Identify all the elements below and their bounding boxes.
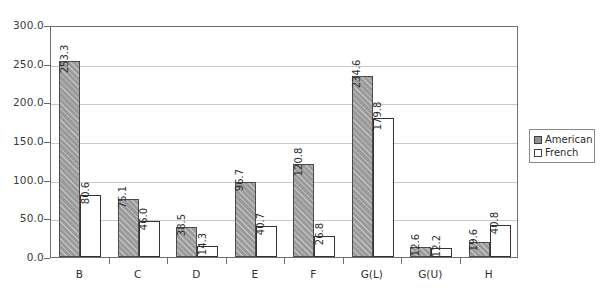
chart-legend: AmericanFrench bbox=[529, 129, 595, 163]
x-category-label: D bbox=[167, 268, 226, 280]
bar-group-c: 75.146.0 bbox=[118, 27, 160, 257]
bar-american-f[interactable]: 120.8 bbox=[293, 164, 314, 257]
x-category-label: E bbox=[226, 268, 285, 280]
x-category-label: C bbox=[109, 268, 168, 280]
y-tick-label: 150.0 bbox=[0, 136, 44, 147]
bar-american-d[interactable]: 38.5 bbox=[176, 227, 197, 257]
y-tick-mark bbox=[44, 258, 50, 259]
bar-group-gl: 234.6179.8 bbox=[352, 27, 394, 257]
bar-value-label: 19.6 bbox=[468, 229, 479, 251]
x-tick-mark bbox=[109, 258, 110, 264]
bar-french-f[interactable]: 26.8 bbox=[314, 236, 335, 257]
bar-american-c[interactable]: 75.1 bbox=[118, 199, 139, 257]
y-tick-mark bbox=[44, 103, 50, 104]
bar-french-h[interactable]: 40.8 bbox=[490, 225, 511, 257]
bar-value-label: 80.6 bbox=[80, 182, 91, 204]
bar-group-h: 19.640.8 bbox=[469, 27, 511, 257]
legend-item-french[interactable]: French bbox=[534, 146, 590, 159]
x-category-label: F bbox=[284, 268, 343, 280]
bar-value-label: 96.7 bbox=[234, 169, 245, 191]
y-tick-mark bbox=[44, 219, 50, 220]
bar-group-d: 38.514.3 bbox=[176, 27, 218, 257]
bar-french-e[interactable]: 40.7 bbox=[256, 226, 277, 257]
bar-french-d[interactable]: 14.3 bbox=[197, 246, 218, 257]
bar-american-gl[interactable]: 234.6 bbox=[352, 76, 373, 257]
bar-value-label: 120.8 bbox=[293, 147, 304, 176]
bar-american-e[interactable]: 96.7 bbox=[235, 182, 256, 257]
x-category-label: H bbox=[460, 268, 519, 280]
y-tick-label: 200.0 bbox=[0, 97, 44, 108]
bar-french-b[interactable]: 80.6 bbox=[80, 195, 101, 257]
bar-value-label: 14.3 bbox=[197, 233, 208, 255]
y-tick-mark bbox=[44, 65, 50, 66]
bar-value-label: 12.2 bbox=[431, 234, 442, 256]
y-tick-label: 100.0 bbox=[0, 175, 44, 186]
legend-label: American bbox=[545, 134, 593, 145]
bar-value-label: 26.8 bbox=[314, 223, 325, 245]
bar-value-label: 40.7 bbox=[255, 212, 266, 234]
x-tick-mark bbox=[343, 258, 344, 264]
y-tick-mark bbox=[44, 142, 50, 143]
bar-chart: 0.050.0100.0150.0200.0250.0300.0 253.380… bbox=[0, 0, 616, 298]
x-category-label: G(L) bbox=[343, 268, 402, 280]
bar-value-label: 253.3 bbox=[59, 45, 70, 74]
y-tick-mark bbox=[44, 26, 50, 27]
bar-american-gu[interactable]: 12.6 bbox=[410, 247, 431, 257]
x-tick-mark bbox=[167, 258, 168, 264]
bar-group-f: 120.826.8 bbox=[293, 27, 335, 257]
y-tick-label: 50.0 bbox=[0, 213, 44, 224]
legend-swatch-american-icon bbox=[534, 136, 542, 144]
x-tick-mark bbox=[460, 258, 461, 264]
bar-value-label: 179.8 bbox=[372, 102, 383, 131]
y-tick-label: 250.0 bbox=[0, 59, 44, 70]
bar-french-c[interactable]: 46.0 bbox=[139, 221, 160, 257]
bar-american-h[interactable]: 19.6 bbox=[469, 242, 490, 257]
legend-item-american[interactable]: American bbox=[534, 133, 590, 146]
bar-value-label: 40.8 bbox=[489, 212, 500, 234]
legend-swatch-french-icon bbox=[534, 149, 542, 157]
y-axis: 0.050.0100.0150.0200.0250.0300.0 bbox=[0, 0, 44, 298]
bar-french-gl[interactable]: 179.8 bbox=[373, 118, 394, 257]
x-category-label: B bbox=[50, 268, 109, 280]
bar-american-b[interactable]: 253.3 bbox=[59, 61, 80, 257]
bar-value-label: 46.0 bbox=[138, 208, 149, 230]
x-tick-mark bbox=[226, 258, 227, 264]
legend-label: French bbox=[545, 147, 578, 158]
bar-value-label: 75.1 bbox=[117, 186, 128, 208]
bar-value-label: 12.6 bbox=[410, 234, 421, 256]
plot-area: 253.380.675.146.038.514.396.740.7120.826… bbox=[50, 26, 518, 258]
bar-group-e: 96.740.7 bbox=[235, 27, 277, 257]
y-tick-label: 300.0 bbox=[0, 20, 44, 31]
bar-group-b: 253.380.6 bbox=[59, 27, 101, 257]
x-category-label: G(U) bbox=[401, 268, 460, 280]
y-tick-mark bbox=[44, 181, 50, 182]
bar-value-label: 234.6 bbox=[351, 59, 362, 88]
bar-value-label: 38.5 bbox=[176, 214, 187, 236]
x-tick-mark bbox=[284, 258, 285, 264]
bar-french-gu[interactable]: 12.2 bbox=[431, 248, 452, 257]
y-tick-label: 0.0 bbox=[0, 252, 44, 263]
bar-group-gu: 12.612.2 bbox=[410, 27, 452, 257]
x-tick-mark bbox=[401, 258, 402, 264]
